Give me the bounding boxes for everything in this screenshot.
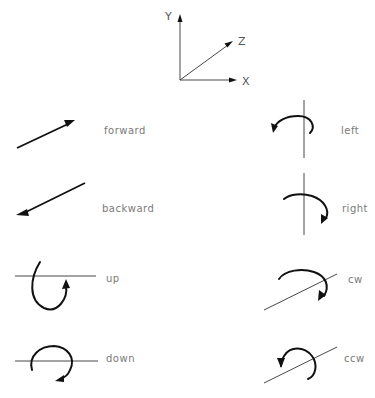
left-label: left	[341, 125, 359, 136]
down-rotation-curve	[31, 346, 72, 379]
motion-ccw: ccw	[264, 347, 365, 383]
cw-label: cw	[348, 274, 363, 285]
up-label: up	[106, 273, 120, 284]
z-axis-label: Z	[238, 35, 246, 48]
right-rotation-curve	[284, 194, 327, 218]
ccw-label: ccw	[344, 353, 365, 364]
backward-arrowhead-icon	[16, 209, 29, 216]
left-rotation-curve	[274, 116, 313, 133]
backward-label: backward	[102, 203, 154, 214]
motion-diagram: Y Z X forward backward up down left	[0, 0, 375, 398]
y-axis-label: Y	[164, 10, 172, 23]
cw-arrowhead-icon	[318, 290, 326, 301]
backward-arrow-line	[24, 183, 85, 213]
down-label: down	[106, 353, 135, 364]
coordinate-axes: Y Z X	[164, 10, 250, 88]
z-axis	[180, 45, 228, 80]
motion-forward: forward	[17, 120, 146, 148]
motion-down: down	[15, 346, 135, 382]
motion-cw: cw	[264, 270, 363, 310]
up-arrowhead-icon	[62, 279, 70, 289]
ccw-arrowhead-icon	[277, 358, 285, 368]
motion-right: right	[284, 173, 368, 235]
x-axis-label: X	[242, 75, 250, 88]
forward-label: forward	[104, 125, 146, 136]
up-rotation-curve	[32, 262, 66, 309]
motion-left: left	[271, 100, 359, 158]
forward-arrow-line	[17, 124, 68, 148]
ccw-rotation-curve	[281, 349, 315, 380]
motion-up: up	[15, 262, 120, 309]
ccw-axis-line	[264, 347, 337, 383]
down-arrowhead-icon	[55, 375, 64, 382]
y-arrowhead-icon	[178, 14, 183, 22]
right-label: right	[342, 203, 368, 214]
motion-backward: backward	[16, 183, 154, 216]
x-arrowhead-icon	[229, 78, 237, 83]
